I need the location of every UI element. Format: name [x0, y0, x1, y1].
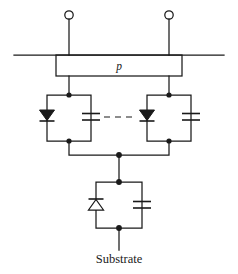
right-branch-top-node [166, 92, 171, 97]
substrate-label: Substrate [96, 252, 143, 266]
branch-substrate [89, 179, 152, 231]
open-terminal-right-icon [165, 11, 173, 19]
diode-hollow-up-icon [89, 200, 104, 211]
merge-wiring [69, 141, 169, 182]
right-branch-loop [147, 95, 191, 141]
substrate-diode [89, 199, 104, 210]
branch-left [40, 92, 101, 143]
terminal-group-left [65, 11, 73, 55]
substrate-branch-top-node [116, 179, 122, 185]
p-region-box: p [56, 55, 182, 76]
substrate-branch-loop [96, 182, 142, 228]
diode-filled-down-icon [40, 110, 55, 121]
p-region-label: p [115, 60, 122, 73]
diode-filled-down-icon [140, 110, 155, 121]
terminal-group-right [165, 11, 173, 55]
open-terminal-left-icon [65, 11, 73, 19]
circuit-schematic-canvas: p [0, 0, 238, 274]
left-branch-diode [40, 110, 55, 121]
branch-right [140, 92, 201, 143]
left-branch-loop [47, 95, 91, 141]
right-branch-diode [140, 110, 155, 121]
circuit-diagram-figure: p [0, 0, 238, 274]
left-branch-top-node [66, 92, 71, 97]
